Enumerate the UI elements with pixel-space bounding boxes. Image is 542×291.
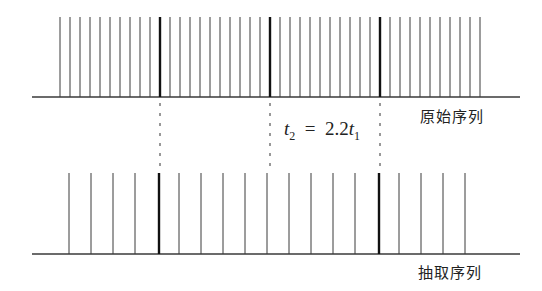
decimated-sequence-label: 抽取序列: [418, 261, 482, 282]
diagram-canvas: [0, 0, 542, 291]
ratio-formula: t2 = 2.2t1: [284, 118, 360, 144]
original-sequence-label: 原始序列: [420, 105, 484, 126]
